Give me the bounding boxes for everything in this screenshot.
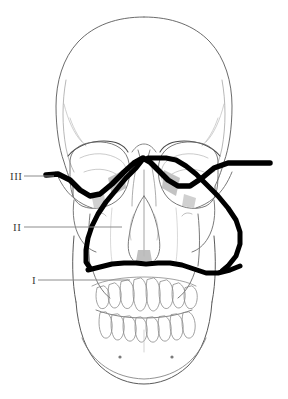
mental-foramen-left <box>118 355 121 358</box>
skull-illustration: III II I <box>0 0 288 399</box>
le-fort-fracture-figure: III II I <box>0 0 288 399</box>
label-le-fort-3: III <box>10 170 23 182</box>
label-le-fort-1: I <box>32 274 36 286</box>
anterior-nasal-spine-shading <box>136 250 152 261</box>
mental-foramen-right <box>170 355 173 358</box>
label-le-fort-2: II <box>13 221 21 233</box>
